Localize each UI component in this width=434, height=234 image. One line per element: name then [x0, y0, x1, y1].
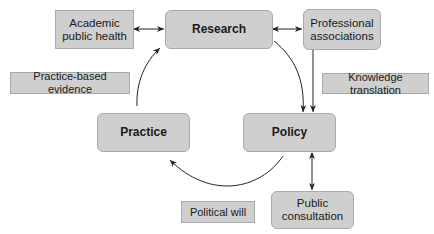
node-practice: Practice	[97, 113, 190, 152]
arrow-policy-practice	[170, 156, 283, 186]
node-policy: Policy	[243, 113, 336, 152]
arrow-research-policy	[274, 41, 303, 112]
label-knowledge-translation: Knowledge translation	[322, 73, 429, 94]
node-research-label: Research	[192, 23, 246, 36]
node-academic-public-health: Academic public health	[55, 10, 134, 49]
label-knowledge-translation-text: Knowledge translation	[323, 71, 428, 97]
label-political-will-text: Political will	[190, 206, 246, 219]
node-professional-associations: Professional associations	[303, 9, 381, 50]
node-policy-label: Policy	[272, 126, 307, 139]
arrow-practice-research	[137, 48, 160, 106]
label-practice-based-evidence: Practice-based evidence	[10, 72, 130, 94]
node-professional-associations-label: Professional associations	[310, 17, 373, 43]
label-political-will: Political will	[181, 201, 255, 223]
label-practice-based-evidence-text: Practice-based evidence	[11, 70, 129, 96]
node-academic-public-health-label: Academic public health	[62, 17, 127, 43]
node-research: Research	[165, 10, 273, 49]
node-public-consultation: Public consultation	[271, 191, 354, 229]
node-practice-label: Practice	[120, 126, 167, 139]
node-public-consultation-label: Public consultation	[282, 197, 343, 223]
